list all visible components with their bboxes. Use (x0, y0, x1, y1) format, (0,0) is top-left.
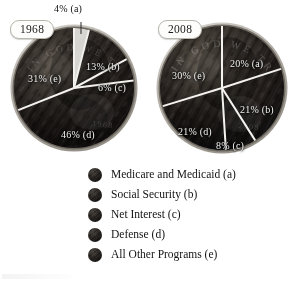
legend-bullet-coin-icon (88, 208, 102, 222)
legend-label-c: Net Interest (c) (111, 209, 181, 221)
year-label-1968: 1968 (10, 20, 54, 39)
legend-label-a: Medicare and Medicaid (a) (111, 169, 236, 181)
legend-bullet-coin-icon (88, 228, 102, 242)
year-label-2008: 2008 (158, 20, 202, 39)
legend-item-a: Medicare and Medicaid (a) (88, 165, 288, 184)
legend-item-d: Defense (d) (88, 225, 288, 244)
scan-edge-artifact (2, 274, 72, 279)
legend-label-b: Social Security (b) (111, 189, 197, 201)
legend: Medicare and Medicaid (a) Social Securit… (88, 165, 288, 265)
pie-chart-1968: IN GOD WE TRUST 1968 (6, 16, 142, 156)
legend-label-d: Defense (d) (111, 229, 165, 241)
legend-bullet-coin-icon (88, 248, 102, 262)
legend-item-c: Net Interest (c) (88, 205, 288, 224)
legend-label-e: All Other Programs (e) (111, 249, 217, 261)
pie-chart-2008: IN GOD WE TRUST 2008 2008 20% (a) 21% (b… (152, 16, 292, 156)
pie-chart-figure: IN GOD WE TRUST 1968 (0, 0, 298, 281)
legend-item-b: Social Security (b) (88, 185, 288, 204)
legend-bullet-coin-icon (88, 168, 102, 182)
legend-bullet-coin-icon (88, 188, 102, 202)
slice-label-1968-a: 4% (a) (54, 3, 82, 14)
legend-item-e: All Other Programs (e) (88, 245, 288, 264)
